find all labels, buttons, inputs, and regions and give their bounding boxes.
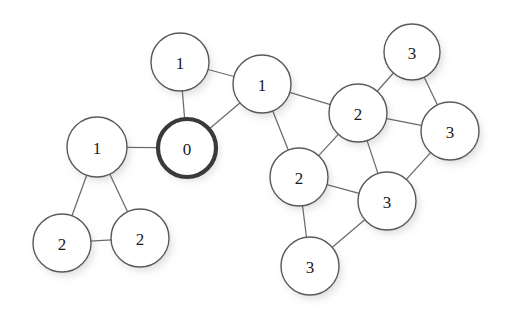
graph-edge	[272, 110, 288, 151]
node-circle	[421, 102, 479, 160]
graph-edge	[289, 92, 331, 105]
graph-edge	[109, 173, 128, 212]
graph-node[interactable]: 3	[358, 172, 416, 230]
node-circle	[281, 237, 339, 295]
graph-node[interactable]: 3	[281, 237, 339, 295]
node-circle	[270, 148, 328, 206]
graph-edge	[377, 72, 395, 92]
graph-node[interactable]: 3	[384, 24, 440, 80]
graph-edge	[326, 184, 360, 193]
graph-node[interactable]: 2	[329, 84, 387, 142]
graph-node[interactable]: 1	[151, 33, 209, 91]
graph-node[interactable]: 2	[33, 214, 91, 272]
node-circle	[384, 24, 440, 80]
graph-node[interactable]: 2	[270, 148, 328, 206]
node-circle-root	[158, 119, 216, 177]
graph-edge	[208, 102, 240, 130]
graph-node[interactable]: 2	[111, 209, 169, 267]
graph-edge	[90, 240, 112, 241]
graph-diagram: 011122223333	[0, 0, 508, 319]
graph-edge	[385, 118, 422, 125]
node-layer: 011122223333	[33, 24, 479, 295]
graph-node[interactable]: 1	[67, 117, 127, 177]
graph-edge	[331, 219, 365, 248]
graph-node[interactable]: 3	[421, 102, 479, 160]
node-circle	[358, 172, 416, 230]
graph-edge	[318, 134, 339, 157]
node-circle	[111, 209, 169, 267]
graph-edge	[72, 174, 87, 216]
node-circle	[67, 117, 127, 177]
node-circle	[151, 33, 209, 91]
graph-edge	[406, 152, 432, 180]
graph-edge	[207, 69, 235, 76]
graph-edge	[424, 76, 438, 105]
node-circle	[33, 214, 91, 272]
node-circle	[329, 84, 387, 142]
graph-edge	[367, 140, 378, 175]
graph-canvas-svg: 011122223333	[0, 0, 508, 319]
graph-node-root[interactable]: 0	[158, 119, 216, 177]
graph-edge	[302, 205, 306, 238]
node-circle	[233, 55, 291, 113]
graph-node[interactable]: 1	[233, 55, 291, 113]
